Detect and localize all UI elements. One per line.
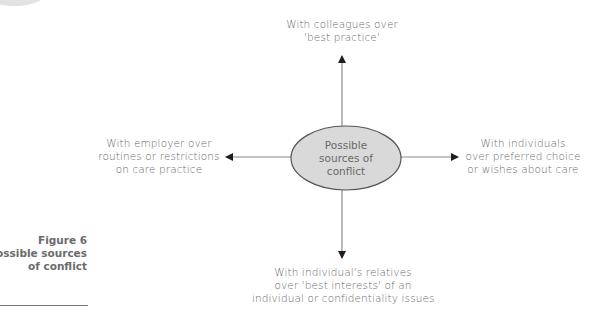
branch-right-line: or wishes about care — [462, 163, 584, 176]
branch-bottom-line: With individual's relatives — [252, 266, 434, 279]
branch-bottom-line: individual or confidentiality issues — [252, 292, 434, 305]
center-node-line: conflict — [296, 165, 396, 178]
branch-label-bottom: With individual's relatives over 'best i… — [252, 266, 434, 305]
figure-title-line: Possible sources — [0, 247, 87, 260]
branch-left-line: on care practice — [97, 163, 221, 176]
center-node-line: Possible — [296, 139, 396, 152]
branch-right-line: With individuals — [462, 137, 584, 150]
figure-caption: Figure 6 Possible sources of conflict — [0, 234, 87, 273]
center-node-label: Possible sources of conflict — [296, 139, 396, 178]
branch-left-line: routines or restrictions — [97, 150, 221, 163]
figure-number: Figure 6 — [0, 234, 87, 247]
branch-right-line: over preferred choice — [462, 150, 584, 163]
caption-divider — [0, 305, 88, 306]
branch-label-right: With individuals over preferred choice o… — [462, 137, 584, 176]
branch-top-line: With colleagues over — [272, 18, 412, 31]
branch-top-line: 'best practice' — [272, 31, 412, 44]
center-node-line: sources of — [296, 152, 396, 165]
branch-label-top: With colleagues over 'best practice' — [272, 18, 412, 44]
figure-title-line: of conflict — [0, 260, 87, 273]
branch-left-line: With employer over — [97, 137, 221, 150]
branch-label-left: With employer over routines or restricti… — [97, 137, 221, 176]
branch-bottom-line: over 'best interests' of an — [252, 279, 434, 292]
